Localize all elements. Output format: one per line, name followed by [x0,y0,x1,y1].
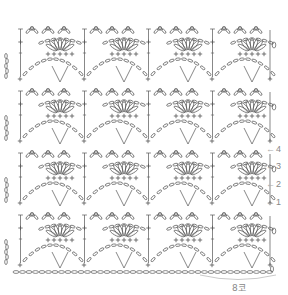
repeat-bracket [0,0,288,295]
